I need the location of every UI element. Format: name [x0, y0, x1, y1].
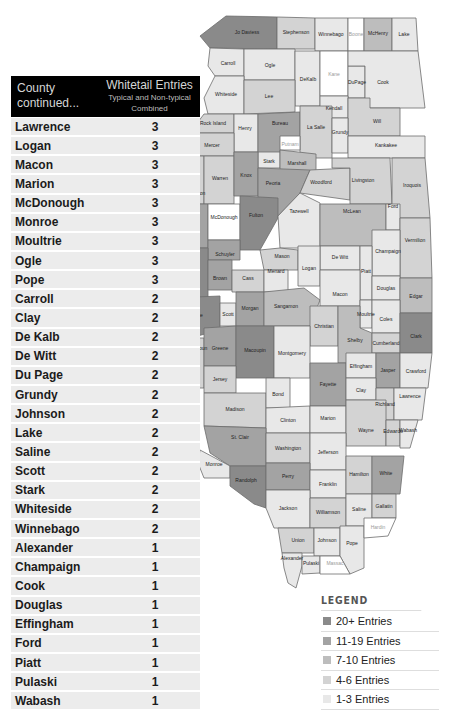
- county-name: Carroll: [11, 292, 145, 306]
- legend-item: 1-3 Entries: [321, 690, 439, 710]
- entry-count: 2: [145, 445, 165, 459]
- entry-count: 2: [145, 368, 165, 382]
- label-white: White: [380, 470, 393, 476]
- county-name: Macon: [11, 158, 145, 172]
- label-hamilton: Hamilton: [349, 471, 369, 477]
- label-putnam: Putnam: [281, 141, 298, 147]
- entry-count: 1: [145, 598, 165, 612]
- label-mcdonough: McDonough: [211, 214, 238, 220]
- county-name: Marion: [11, 177, 145, 191]
- table-row: Du Page2: [11, 367, 200, 384]
- entry-count: 2: [145, 349, 165, 363]
- label-dupage: DuPage: [348, 79, 366, 85]
- entry-count: 3: [145, 139, 165, 153]
- label-marshall: Marshall: [288, 160, 307, 166]
- label-marion: Marion: [320, 415, 336, 421]
- entry-count: 1: [145, 579, 165, 593]
- label-warren: Warren: [212, 175, 228, 181]
- county-name: Ford: [11, 636, 145, 650]
- label-fayette: Fayette: [320, 381, 337, 387]
- table-row: De Witt2: [11, 348, 200, 365]
- label-franklin: Franklin: [319, 481, 337, 487]
- label-jasper: Jasper: [380, 367, 395, 373]
- label-clay: Clay: [356, 387, 367, 393]
- label-monroe: Monroe: [206, 461, 223, 467]
- label-pope: Pope: [346, 540, 358, 546]
- table-header: County continued... Whitetail Entries Ty…: [11, 76, 200, 117]
- county-name: Douglas: [11, 598, 145, 612]
- label-hardin: Hardin: [371, 524, 386, 530]
- table-row: Marion3: [11, 175, 200, 192]
- label-logan: Logan: [302, 265, 316, 271]
- table-row: Moultrie3: [11, 233, 200, 250]
- label-knox: Knox: [240, 172, 252, 178]
- county-wabash: [400, 420, 418, 448]
- county-name: Saline: [11, 445, 145, 459]
- label-dewitt: De Witt: [332, 254, 349, 260]
- table-row: Clay2: [11, 309, 200, 326]
- label-morgan: Morgan: [242, 305, 259, 311]
- label-whiteside: Whiteside: [215, 91, 237, 97]
- entry-count: 3: [145, 234, 165, 248]
- county-name: Scott: [11, 464, 145, 478]
- county-entries-table: County continued... Whitetail Entries Ty…: [11, 76, 200, 709]
- label-gallatin: Gallatin: [376, 503, 393, 509]
- county-name: Champaign: [11, 560, 145, 574]
- county-name: Clay: [11, 311, 145, 325]
- label-lawrence: Lawrence: [399, 393, 421, 399]
- entry-count: 2: [145, 311, 165, 325]
- table-row: Ford1: [11, 635, 200, 652]
- label-rockisland: Rock Island: [200, 120, 226, 126]
- table-row: Alexander1: [11, 539, 200, 556]
- label-randolph: Randolph: [235, 477, 257, 483]
- table-row: De Kalb2: [11, 329, 200, 346]
- entry-count: 3: [145, 215, 165, 229]
- label-macoupin: Macoupin: [244, 347, 266, 353]
- label-woodford: Woodford: [310, 179, 332, 185]
- county-lasalle: [300, 106, 332, 158]
- legend-swatch-icon: [323, 676, 331, 684]
- label-tazewell: Tazewell: [289, 208, 308, 214]
- entry-count: 3: [145, 196, 165, 210]
- table-row: Logan3: [11, 137, 200, 154]
- county-name: Alexander: [11, 541, 145, 555]
- label-lake: Lake: [399, 31, 410, 37]
- label-christian: Christian: [314, 323, 334, 329]
- label-douglas: Douglas: [377, 285, 396, 291]
- header-entries: Whitetail Entries Typical and Non-typica…: [99, 76, 200, 117]
- label-richland: Richland: [375, 401, 395, 407]
- label-mclean: McLean: [343, 208, 361, 214]
- county-mcdonough: [208, 204, 240, 240]
- legend-label: 20+ Entries: [336, 615, 392, 627]
- entry-count: 2: [145, 330, 165, 344]
- entry-count: 2: [145, 502, 165, 516]
- label-carroll: Carroll: [221, 60, 236, 66]
- label-jackson: Jackson: [279, 505, 298, 511]
- county-name: Grundy: [11, 388, 145, 402]
- county-name: Logan: [11, 139, 145, 153]
- table-row: Monroe3: [11, 214, 200, 231]
- label-massac: Massac: [326, 560, 344, 566]
- county-grundy: [332, 118, 348, 153]
- table-row: Pope3: [11, 271, 200, 288]
- label-johnson: Johnson: [318, 537, 337, 543]
- table-row: Piatt1: [11, 654, 200, 671]
- header-entries-subtitle: Typical and Non-typical Combined: [99, 92, 200, 114]
- legend-label: 4-6 Entries: [336, 674, 389, 686]
- table-row: Lake2: [11, 424, 200, 441]
- county-name: Cook: [11, 579, 145, 593]
- label-perry: Perry: [282, 473, 294, 479]
- label-williamson: Williamson: [316, 509, 340, 515]
- table-row: Douglas1: [11, 597, 200, 614]
- entry-count: 2: [145, 292, 165, 306]
- label-schuyler: Schuyler: [215, 251, 235, 257]
- entry-count: 2: [145, 426, 165, 440]
- label-lasalle: La Salle: [307, 124, 325, 130]
- county-mason: [260, 248, 298, 270]
- label-clark: Clark: [410, 333, 422, 339]
- label-saline: Saline: [352, 506, 366, 512]
- table-row: Champaign1: [11, 558, 200, 575]
- table-row: McDonough3: [11, 195, 200, 212]
- table-row: Carroll2: [11, 290, 200, 307]
- label-cook: Cook: [377, 79, 389, 85]
